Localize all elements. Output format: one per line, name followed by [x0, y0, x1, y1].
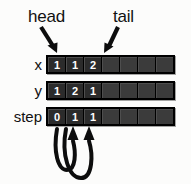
cell-step-3[interactable]	[102, 109, 119, 124]
cell-y-3[interactable]	[102, 83, 119, 98]
array-cells-step: 0 1 1	[46, 107, 175, 126]
array-cells-x: 1 1 2	[46, 55, 175, 74]
cell-x-3[interactable]	[102, 57, 119, 72]
tail-arrow-icon	[104, 27, 118, 53]
cell-step-1[interactable]: 1	[66, 109, 83, 124]
cell-x-1[interactable]: 1	[66, 57, 83, 72]
row-label-y: y	[0, 83, 46, 98]
cell-x-4[interactable]	[120, 57, 137, 72]
cell-y-4[interactable]	[120, 83, 137, 98]
cell-step-0[interactable]: 0	[48, 109, 65, 124]
cell-step-6[interactable]	[156, 109, 173, 124]
cell-step-2[interactable]: 1	[84, 109, 101, 124]
row-label-step: step	[0, 109, 46, 124]
array-row-step: step 0 1 1	[0, 107, 175, 126]
array-row-y: y 1 2 1	[0, 81, 175, 100]
row-label-x: x	[0, 57, 46, 72]
head-arrow-icon	[41, 27, 58, 53]
cell-y-0[interactable]: 1	[48, 83, 65, 98]
back-arrow-2-icon	[64, 126, 94, 178]
cell-x-5[interactable]	[138, 57, 155, 72]
annotation-label-tail: tail	[113, 8, 134, 25]
cell-x-6[interactable]	[156, 57, 173, 72]
cell-step-4[interactable]	[120, 109, 137, 124]
cell-y-1[interactable]: 2	[66, 83, 83, 98]
cell-y-2[interactable]: 1	[84, 83, 101, 98]
cell-x-0[interactable]: 1	[48, 57, 65, 72]
array-row-x: x 1 1 2	[0, 55, 175, 74]
array-cells-y: 1 2 1	[46, 81, 175, 100]
cell-y-5[interactable]	[138, 83, 155, 98]
back-arrow-1-icon	[56, 126, 79, 170]
annotation-label-head: head	[28, 8, 65, 25]
cell-y-6[interactable]	[156, 83, 173, 98]
cell-x-2[interactable]: 2	[84, 57, 101, 72]
diagram-canvas: head tail x 1 1 2	[0, 0, 191, 184]
cell-step-5[interactable]	[138, 109, 155, 124]
